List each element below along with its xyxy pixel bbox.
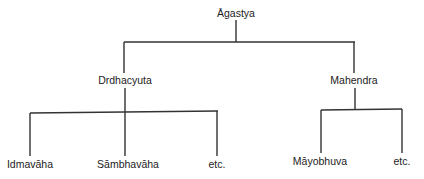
node-idmavaha: Idmavāha — [5, 158, 55, 170]
node-drdhacyuta: Drdhacyuta — [96, 74, 154, 86]
tree-connectors — [0, 0, 424, 179]
node-mahendra: Mahendra — [328, 74, 379, 86]
node-etc-left: etc. — [207, 158, 228, 170]
node-mayobhuva: Māyobhuva — [291, 155, 349, 167]
mahendra-bar — [321, 109, 402, 110]
node-etc-right: etc. — [392, 155, 413, 167]
drdhacyuta-bar — [30, 111, 218, 113]
node-sambhavaha: Sāmbhavāha — [95, 158, 161, 170]
node-agastya: Āgastya — [215, 7, 257, 19]
